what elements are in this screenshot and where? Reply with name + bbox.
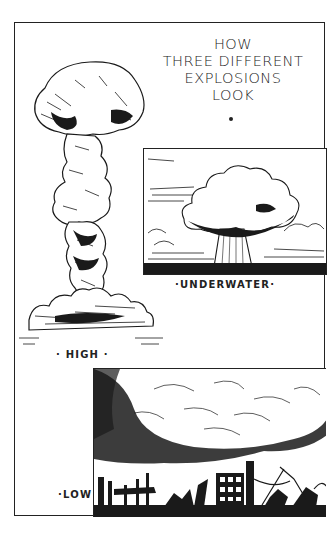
caption-underwater: ·UNDERWATER· xyxy=(175,279,275,290)
caption-low: ·LOW xyxy=(58,489,92,500)
underwater-panel xyxy=(143,148,327,275)
title-line-4: LOOK xyxy=(140,87,326,104)
underwater-blast-icon xyxy=(144,149,327,275)
title-bullet-dot xyxy=(229,117,233,121)
title-line-2: THREE DIFFERENT xyxy=(140,53,326,70)
title-line-1: HOW xyxy=(140,36,326,53)
low-blast-city-icon xyxy=(94,369,326,517)
page-title: HOW THREE DIFFERENT EXPLOSIONS LOOK xyxy=(140,36,326,104)
low-panel xyxy=(93,368,326,517)
caption-high: · HIGH · xyxy=(56,349,109,360)
title-line-3: EXPLOSIONS xyxy=(140,70,326,87)
